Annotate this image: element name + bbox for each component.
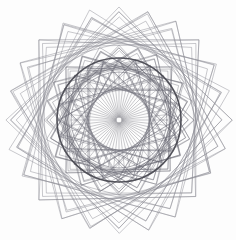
rosette-figure (0, 0, 236, 240)
rosette-canvas (0, 0, 236, 240)
